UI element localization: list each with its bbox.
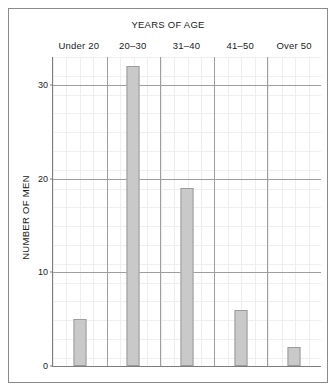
bar-20-30[interactable] <box>127 66 140 366</box>
y-tick-label-10: 10 <box>38 267 48 277</box>
y-tick-label-0: 0 <box>43 361 48 371</box>
bar-slot-over-50 <box>267 57 321 366</box>
bar-slot-31-40 <box>160 57 214 366</box>
bars-layer <box>53 57 321 366</box>
category-label-31-40: 31–40 <box>160 40 214 54</box>
figure-frame: YEARS OF AGE Under 20 20–30 31–40 41–50 … <box>8 8 328 383</box>
bar-over-50[interactable] <box>288 347 301 366</box>
plot-area: 0102030 <box>52 57 321 367</box>
bar-slot-under-20 <box>53 57 107 366</box>
bar-under-20[interactable] <box>73 319 86 366</box>
category-label-over-50: Over 50 <box>267 40 321 54</box>
category-label-20-30: 20–30 <box>106 40 160 54</box>
y-axis-title: NUMBER OF MEN <box>20 148 31 288</box>
bar-41-50[interactable] <box>234 310 247 366</box>
category-label-under-20: Under 20 <box>52 40 106 54</box>
bar-31-40[interactable] <box>180 188 193 366</box>
bar-slot-41-50 <box>214 57 268 366</box>
y-tick-label-30: 30 <box>38 80 48 90</box>
y-tick-label-20: 20 <box>38 174 48 184</box>
bar-slot-20-30 <box>107 57 161 366</box>
category-label-41-50: 41–50 <box>213 40 267 54</box>
chart-title: YEARS OF AGE <box>9 19 327 30</box>
category-axis-labels: Under 20 20–30 31–40 41–50 Over 50 <box>52 40 321 54</box>
